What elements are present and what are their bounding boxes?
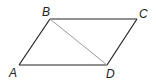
- vertex-label-a: A: [8, 66, 17, 80]
- parallelogram-diagram: A B C D: [0, 0, 156, 81]
- diagonal-bd: [50, 19, 107, 65]
- vertex-label-b: B: [42, 5, 50, 19]
- edge-cd: [107, 19, 137, 65]
- vertex-label-c: C: [139, 7, 148, 21]
- vertex-label-d: D: [106, 67, 115, 81]
- edge-ab: [19, 19, 50, 65]
